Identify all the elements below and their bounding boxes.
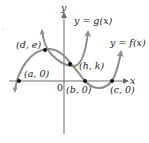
point-d-e (43, 48, 47, 52)
origin-label: 0 (57, 82, 63, 93)
y-axis-label: y (60, 2, 67, 13)
point-d-e-label: (d, e) (16, 39, 41, 50)
curve-g-label: y = g(x) (73, 15, 113, 26)
point-h-k (68, 62, 72, 66)
stray-dot (2, 28, 3, 29)
point-c (110, 79, 114, 83)
function-graph: y x 0 y = g(x) y = f(x) (a, 0) (d, e) (h… (0, 0, 149, 143)
point-a (17, 79, 21, 83)
point-h-k-label: (h, k) (79, 60, 105, 71)
curve-f-label: y = f(x) (109, 37, 146, 48)
point-c-label: (c, 0) (110, 84, 135, 95)
point-b-label: (b, 0) (66, 84, 92, 95)
point-a-label: (a, 0) (24, 68, 49, 79)
point-b (83, 79, 87, 83)
